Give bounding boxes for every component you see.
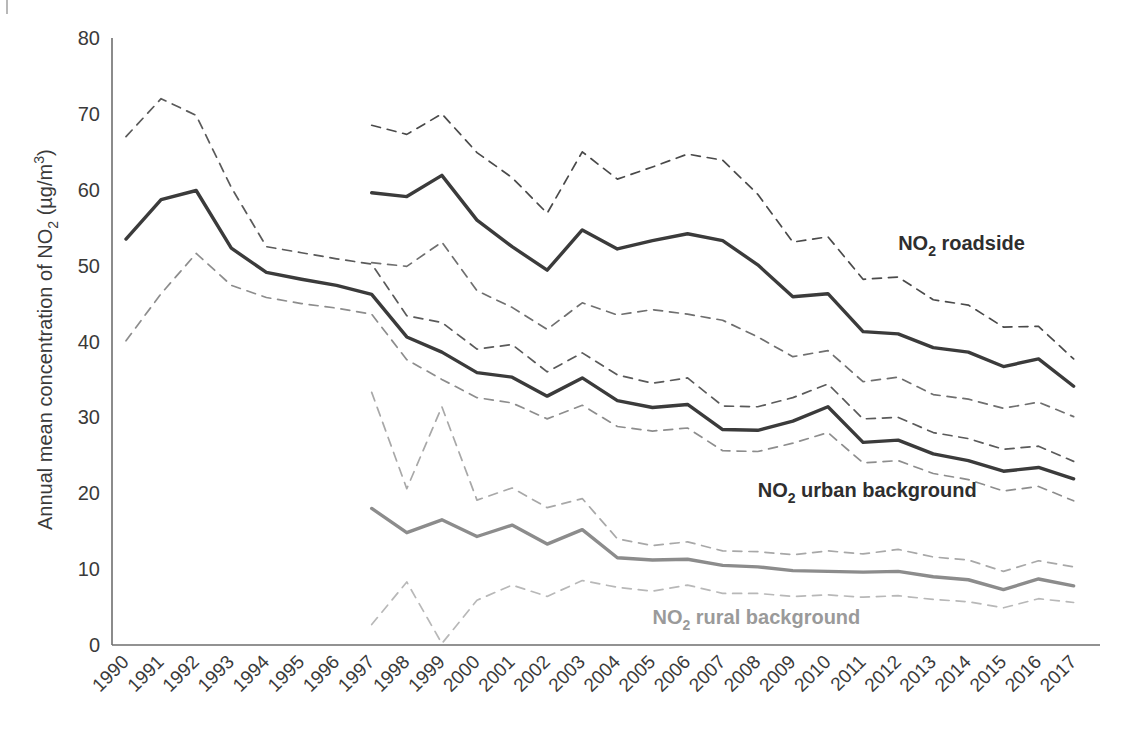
- y-tick-label: 60: [78, 179, 100, 201]
- y-tick-label: 30: [78, 406, 100, 428]
- series-line: [372, 508, 1074, 589]
- x-tick-label: 2013: [895, 651, 940, 696]
- series-annotation-urban: NO2 urban background: [758, 479, 977, 506]
- x-tick-label: 2006: [650, 651, 695, 696]
- x-tick-label: 1992: [158, 651, 203, 696]
- series-annotation-rural: NO2 rural background: [652, 606, 860, 633]
- data-series-layer: [126, 99, 1074, 644]
- x-tick-label: 2007: [685, 651, 730, 696]
- y-axis-title: Annual mean concentration of NO2 (µg/m3): [31, 149, 61, 530]
- y-tick-labels: 01020304050607080: [78, 27, 100, 656]
- annotation-subscript: 2: [928, 243, 936, 259]
- y-tick-label: 0: [89, 634, 100, 656]
- series-line: [372, 175, 1074, 386]
- y-tick-label: 70: [78, 103, 100, 125]
- y-tick-label: 40: [78, 331, 100, 353]
- annotation-lead: NO: [898, 232, 928, 254]
- y-tick-label: 10: [78, 558, 100, 580]
- series-annotation-roadside: NO2 roadside: [898, 232, 1025, 259]
- page-corner-mark: [6, 0, 8, 14]
- x-tick-label: 2016: [1001, 651, 1046, 696]
- y-tick-label: 50: [78, 255, 100, 277]
- y-tick-label: 80: [78, 27, 100, 49]
- x-tick-label: 2014: [930, 651, 975, 696]
- x-tick-label: 2012: [860, 651, 905, 696]
- series-line: [372, 242, 1074, 417]
- x-tick-label: 1996: [299, 651, 344, 696]
- annotation-tail: rural background: [690, 606, 860, 628]
- series-line: [126, 99, 1074, 462]
- x-tick-label: 1991: [123, 651, 168, 696]
- y-axis-title-tail: ): [34, 149, 56, 156]
- y-tick-label: 20: [78, 482, 100, 504]
- x-tick-label: 2001: [474, 651, 519, 696]
- x-tick-label: 2005: [615, 651, 660, 696]
- x-tick-label: 2011: [826, 651, 870, 695]
- x-tick-label: 1998: [369, 651, 414, 696]
- x-tick-label: 1990: [88, 651, 133, 696]
- x-tick-label: 2009: [755, 651, 800, 696]
- x-tick-labels: 1990199119921993199419951996199719981999…: [88, 651, 1080, 696]
- y-axis-title-lead: Annual mean concentration of NO: [34, 229, 56, 530]
- x-tick-label: 2002: [509, 651, 554, 696]
- y-axis-title-sub: 2: [45, 221, 61, 229]
- chart-figure: Annual mean concentration of NO2 (µg/m3)…: [0, 0, 1137, 732]
- y-axis-title-mid: (µg/m: [34, 164, 56, 221]
- no2-concentration-line-chart: Annual mean concentration of NO2 (µg/m3)…: [0, 0, 1137, 732]
- annotation-lead: NO: [652, 606, 682, 628]
- annotation-tail: roadside: [936, 232, 1025, 254]
- series-line: [126, 191, 1074, 479]
- x-tick-label: 1993: [193, 651, 238, 696]
- series-line: [126, 253, 1074, 500]
- x-tick-label: 1999: [404, 651, 449, 696]
- x-tick-label: 2010: [790, 651, 835, 696]
- y-axis-title-sup: 3: [31, 156, 47, 164]
- annotation-tail: urban background: [796, 479, 977, 501]
- x-tick-label: 1997: [334, 651, 379, 696]
- x-tick-label: 2004: [579, 651, 624, 696]
- x-tick-label: 1995: [264, 651, 309, 696]
- svg-text:Annual mean concentration of N: Annual mean concentration of NO2 (µg/m3): [31, 149, 61, 530]
- annotation-lead: NO: [758, 479, 788, 501]
- annotation-subscript: 2: [682, 617, 690, 633]
- x-tick-label: 2017: [1036, 651, 1081, 696]
- chart-axes: [112, 38, 1100, 645]
- x-tick-label: 2003: [544, 651, 589, 696]
- x-tick-label: 2000: [439, 651, 484, 696]
- x-tick-label: 1994: [228, 651, 273, 696]
- x-tick-label: 2015: [966, 651, 1011, 696]
- annotation-subscript: 2: [788, 490, 796, 506]
- x-tick-label: 2008: [720, 651, 765, 696]
